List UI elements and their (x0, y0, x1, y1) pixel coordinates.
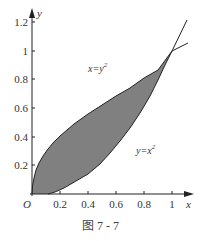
x-tick-label: 0.2 (53, 198, 67, 210)
y-axis-arrow-icon (29, 8, 35, 18)
x-tick-label: 0.6 (109, 198, 123, 210)
y-tick-label: 0.4 (14, 131, 28, 143)
x-tick-label: 0.4 (81, 198, 95, 210)
region-figure: 0.2 0.4 0.6 0.8 1 0.2 0.4 0.6 0.8 1 1.2 … (0, 0, 201, 241)
y-tick-label: 0.6 (14, 102, 28, 114)
origin-label: O (23, 198, 31, 210)
figure-caption: 图 7 - 7 (0, 216, 201, 234)
curve-upper-label: x=y2 (87, 61, 108, 74)
curve-lower-label: y=x2 (135, 143, 156, 156)
y-axis-label: y (36, 7, 42, 19)
y-tick-label: 1.2 (14, 16, 28, 28)
x-tick-label: 0.8 (137, 198, 151, 210)
y-tick-label: 0.8 (14, 73, 28, 85)
x-axis-label: x (185, 198, 191, 210)
y-tick-label: 1 (23, 45, 29, 57)
x-tick-label: 1 (169, 198, 175, 210)
y-tick-label: 0.2 (14, 159, 28, 171)
x-axis-arrow-icon (184, 191, 194, 197)
